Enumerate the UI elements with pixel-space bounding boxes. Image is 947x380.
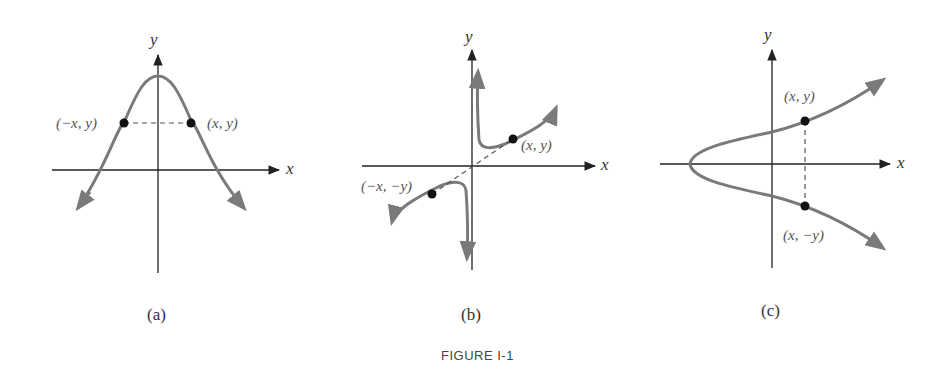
point-label-x-y: (x, y) [784, 88, 815, 105]
point-label-neg-x-neg-y: (−x, −y) [361, 178, 412, 195]
y-axis-label: y [762, 25, 772, 44]
point-x-neg-y [801, 202, 810, 211]
point-neg-x-y [120, 119, 129, 128]
point-x-y [509, 135, 518, 144]
curve-lower-branch [466, 190, 468, 258]
x-axis-label: x [285, 159, 294, 178]
point-label-x-y: (x, y) [207, 115, 238, 132]
y-axis-label: y [148, 30, 158, 49]
x-axis-label: x [896, 153, 905, 172]
point-label-x-neg-y: (x, −y) [783, 227, 824, 244]
point-x-y [187, 119, 196, 128]
panel-b: x y (x, y) (−x, −y) (b) FIGURE I-1 [361, 27, 609, 363]
caption-a: (a) [147, 305, 166, 324]
panel-c: x y (x, y) (x, −y) (c) [660, 25, 905, 320]
figure-canvas: x y (−x, y) (x, y) (a) x y (x, y) (−x, −… [0, 0, 947, 380]
bell-curve [78, 76, 244, 208]
point-neg-x-neg-y [428, 190, 437, 199]
point-label-neg-x-y: (−x, y) [56, 115, 97, 132]
point-x-y [801, 117, 810, 126]
point-label-x-y: (x, y) [521, 137, 552, 154]
figure-title: FIGURE I-1 [441, 348, 514, 363]
x-axis-label: x [600, 155, 609, 174]
caption-c: (c) [761, 301, 780, 320]
panel-a: x y (−x, y) (x, y) (a) [52, 30, 294, 324]
curve-upper-branch [477, 72, 479, 140]
bell-curve-left-arrow [78, 192, 90, 208]
y-axis-label: y [463, 27, 473, 46]
caption-b: (b) [461, 305, 481, 324]
